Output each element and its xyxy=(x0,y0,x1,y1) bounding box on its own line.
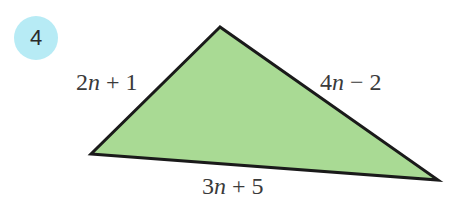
operator: + xyxy=(232,173,246,199)
coef: 2 xyxy=(76,69,88,95)
coef: 4 xyxy=(320,69,332,95)
figure-canvas: 4 2n + 1 4n − 2 3n + 5 xyxy=(0,0,464,203)
side-label-bottom: 3n + 5 xyxy=(202,174,264,198)
coef: 3 xyxy=(202,173,214,199)
operator: + xyxy=(106,69,120,95)
triangle-shape xyxy=(91,27,438,180)
side-label-left: 2n + 1 xyxy=(76,70,138,94)
constant: 2 xyxy=(370,69,382,95)
constant: 1 xyxy=(126,69,138,95)
constant: 5 xyxy=(252,173,264,199)
variable: n xyxy=(214,173,226,199)
side-label-right: 4n − 2 xyxy=(320,70,382,94)
variable: n xyxy=(88,69,100,95)
variable: n xyxy=(332,69,344,95)
operator: − xyxy=(350,69,364,95)
